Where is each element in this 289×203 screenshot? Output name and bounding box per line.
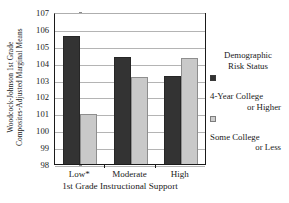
legend-entry-high-education: 4-Year College or Higher bbox=[210, 73, 289, 112]
chart-legend: Demographic Risk Status 4-Year College o… bbox=[210, 50, 289, 153]
y-axis-tick-label: 106 bbox=[36, 26, 49, 35]
legend-title: Demographic Risk Status bbox=[210, 50, 286, 71]
y-axis-title: Woodcock-Johnson 1st Grade Composites-Ad… bbox=[0, 0, 30, 175]
legend-label-line2: or Higher bbox=[210, 102, 289, 112]
plot-right-border bbox=[205, 13, 206, 165]
legend-label-line1: 4-Year College bbox=[210, 91, 289, 101]
legend-entry-low-education: Some College or Less bbox=[210, 114, 289, 153]
y-axis-tick-label: 107 bbox=[36, 9, 49, 18]
bar bbox=[164, 76, 181, 166]
y-axis-title-line1: Woodcock-Johnson 1st Grade bbox=[6, 29, 15, 147]
y-axis-tick-label: 102 bbox=[36, 93, 49, 102]
legend-swatch-light-icon bbox=[210, 116, 216, 122]
y-axis-tick-label: 103 bbox=[36, 76, 49, 85]
legend-swatch-dark-icon bbox=[210, 75, 216, 81]
x-axis-category-label: Moderate bbox=[112, 168, 146, 180]
legend-label-high-education: 4-Year College or Higher bbox=[210, 79, 289, 112]
bar-group bbox=[55, 14, 205, 165]
y-axis-title-line2: Composites-Adjusted Marginal Means bbox=[15, 29, 24, 147]
legend-title-line1: Demographic bbox=[224, 50, 272, 60]
x-axis-title: 1st Grade Instructional Support bbox=[30, 180, 210, 192]
y-axis-tick-label: 98 bbox=[40, 161, 49, 170]
y-axis-tick-labels: 1071061051041031021011009998 bbox=[28, 8, 51, 168]
y-axis-tick-label: 99 bbox=[40, 144, 49, 153]
bar bbox=[181, 58, 198, 165]
bar-chart-figure: Woodcock-Johnson 1st Grade Composites-Ad… bbox=[0, 0, 289, 203]
legend-label-low-education: Some College or Less bbox=[210, 120, 289, 153]
legend-label-line2: or Less bbox=[210, 142, 289, 152]
y-axis-tick-label: 101 bbox=[36, 110, 49, 119]
y-axis-tick-label: 100 bbox=[36, 127, 49, 136]
legend-title-line2: Risk Status bbox=[210, 61, 286, 72]
x-axis-category-label: High bbox=[171, 168, 189, 180]
legend-label-line1: Some College bbox=[210, 132, 289, 142]
y-axis-tick-label: 105 bbox=[36, 42, 49, 51]
plot-area bbox=[54, 13, 205, 165]
y-axis-tick-label: 104 bbox=[36, 59, 49, 68]
x-axis-category-label: Low* bbox=[69, 168, 90, 180]
